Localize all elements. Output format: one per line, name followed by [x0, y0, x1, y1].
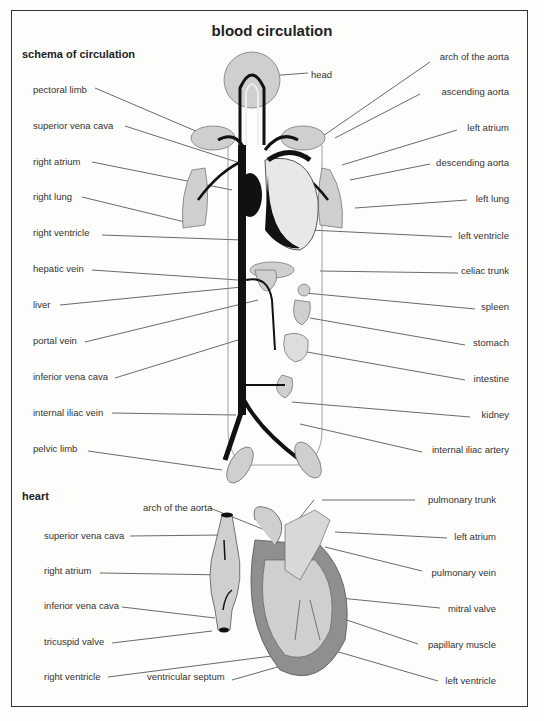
heart-detail	[210, 507, 347, 676]
label-superior-vena-cava: superior vena cava	[33, 120, 113, 131]
label-tricuspid-valve: tricuspid valve	[44, 636, 104, 647]
label-arch-of-aorta: arch of the aorta	[440, 51, 509, 62]
label-heart-inferior-vena-cava: inferior vena cava	[44, 600, 119, 611]
head-organ	[224, 52, 280, 145]
label-hepatic-vein: hepatic vein	[33, 263, 84, 274]
label-heart-superior-vena-cava: superior vena cava	[44, 530, 124, 541]
label-heart-arch-of-aorta: arch of the aorta	[143, 502, 212, 513]
label-heart-right-atrium: right atrium	[44, 565, 92, 576]
label-pectoral-limb: pectoral limb	[33, 84, 87, 95]
label-stomach: stomach	[473, 337, 509, 348]
portal-vessels	[246, 279, 285, 385]
label-inferior-vena-cava: inferior vena cava	[33, 371, 108, 382]
label-heart-left-ventricle: left ventricle	[445, 675, 496, 686]
label-head: head	[311, 69, 332, 80]
label-internal-iliac-artery: internal iliac artery	[432, 444, 509, 455]
label-internal-iliac-vein: internal iliac vein	[33, 407, 103, 418]
label-pulmonary-vein: pulmonary vein	[432, 567, 496, 578]
label-ventricular-septum: ventricular septum	[147, 671, 225, 682]
label-intestine: intestine	[474, 373, 509, 384]
label-descending-aorta: descending aorta	[436, 157, 509, 168]
label-celiac-trunk: celiac trunk	[461, 265, 509, 276]
label-liver: liver	[33, 299, 50, 310]
label-right-ventricle: right ventricle	[33, 227, 90, 238]
label-left-lung: left lung	[476, 193, 509, 204]
label-left-ventricle: left ventricle	[458, 230, 509, 241]
label-left-atrium: left atrium	[467, 122, 509, 133]
schema-heart	[238, 158, 318, 250]
label-right-lung: right lung	[33, 191, 72, 202]
label-heart-left-atrium: left atrium	[454, 531, 496, 542]
label-spleen: spleen	[481, 301, 509, 312]
label-kidney: kidney	[482, 409, 509, 420]
lungs	[182, 158, 342, 228]
label-right-atrium: right atrium	[33, 156, 81, 167]
label-heart-right-ventricle: right ventricle	[44, 671, 101, 682]
label-portal-vein: portal vein	[33, 335, 77, 346]
label-papillary-muscle: papillary muscle	[428, 639, 496, 650]
label-pelvic-limb: pelvic limb	[33, 443, 77, 454]
label-ascending-aorta: ascending aorta	[441, 86, 509, 97]
label-pulmonary-trunk: pulmonary trunk	[428, 494, 496, 505]
abdominal-organs	[221, 262, 326, 487]
label-mitral-valve: mitral valve	[448, 603, 496, 614]
